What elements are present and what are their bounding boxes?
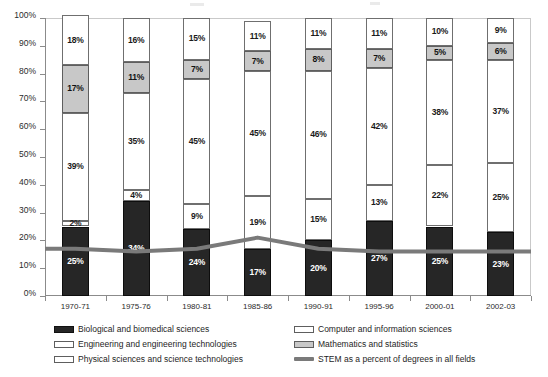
bar-segment-label: 5%: [434, 48, 446, 57]
legend-label: Mathematics and statistics: [318, 339, 418, 349]
bar-segment-math: 11%: [123, 62, 150, 93]
legend-label: Computer and information sciences: [318, 324, 452, 334]
y-axis-tick-label: 90%: [19, 39, 36, 48]
y-axis-tick-label: 50%: [19, 150, 36, 159]
bar-segment-label: 11%: [128, 73, 144, 82]
bar-segment-label: 9%: [191, 212, 203, 221]
y-axis-tick-label: 80%: [19, 67, 36, 76]
bar-segment-label: 10%: [432, 27, 448, 36]
bar-segment-phys: 9%: [487, 18, 514, 43]
legend-label: Engineering and engineering technologies: [78, 339, 237, 349]
x-axis-tick-label: 1980-81: [167, 302, 227, 312]
bar-segment-math: 7%: [366, 49, 393, 68]
x-axis-tick-label: 1995-96: [349, 302, 409, 312]
bar-segment-eng: 46%: [305, 71, 332, 199]
bar-segment-label: 42%: [371, 122, 387, 131]
bar-segment-math: 7%: [183, 60, 210, 79]
bar-segment-label: 17%: [249, 268, 265, 277]
x-axis-tick-mark: [531, 296, 532, 301]
x-axis-tick-label: 1985-86: [228, 302, 288, 312]
bar-segment-eng: 45%: [244, 71, 271, 196]
bar-segment-eng: 45%: [183, 79, 210, 204]
bar-segment-math: 8%: [305, 49, 332, 71]
bar-segment-label: 25%: [67, 257, 83, 266]
bar-segment-label: 23%: [492, 260, 508, 269]
x-axis-tick-mark: [227, 296, 228, 301]
bar-segment-label: 22%: [432, 191, 448, 200]
bar-segment-comp: 2%: [62, 221, 89, 227]
y-axis-tick-label: 100%: [14, 11, 36, 20]
bar-segment-eng: 38%: [426, 60, 453, 166]
y-axis-tick-label: 30%: [19, 206, 36, 215]
bar-segment-comp: 19%: [244, 196, 271, 249]
bar-segment-eng: 37%: [487, 60, 514, 163]
bar-column: 27%13%42%7%11%: [366, 18, 393, 296]
scan-artifact: [370, 2, 380, 5]
bar-segment-bio: 17%: [244, 249, 271, 296]
stacked-bar-chart: 0%10%20%30%40%50%60%70%80%90%100% 25%2%3…: [0, 0, 548, 377]
bar-segment-eng: 42%: [366, 68, 393, 185]
bar-segment-label: 37%: [492, 107, 508, 116]
plot-area: [45, 18, 531, 296]
legend-column-right: Computer and information sciencesMathema…: [294, 322, 475, 367]
x-axis-tick-label: 2002-03: [471, 302, 531, 312]
bar-segment-comp: 13%: [366, 185, 393, 221]
bar-segment-label: 15%: [189, 34, 205, 43]
y-axis-tick-label: 60%: [19, 122, 36, 131]
bar-segment-phys: 11%: [244, 21, 271, 52]
bar-segment-label: 15%: [310, 215, 326, 224]
legend-swatch-comp: [294, 326, 314, 333]
bar-segment-label: 20%: [310, 264, 326, 273]
bar-segment-label: 11%: [310, 29, 326, 38]
bar-segment-label: 9%: [495, 26, 507, 35]
bar-segment-phys: 10%: [426, 18, 453, 46]
x-axis-tick-label: 1990-91: [288, 302, 348, 312]
bar-segment-label: 46%: [310, 130, 326, 139]
y-axis-tick-label: 20%: [19, 233, 36, 242]
y-axis-tick-label: 40%: [19, 178, 36, 187]
bar-segment-bio: 24%: [183, 229, 210, 296]
x-axis-tick-label: 1975-76: [106, 302, 166, 312]
x-axis-tick-label: 1970-71: [45, 302, 105, 312]
x-axis-tick-mark: [45, 296, 46, 301]
bar-segment-phys: 16%: [123, 18, 150, 62]
bar-column: 24%9%45%7%15%: [183, 18, 210, 296]
x-axis-tick-mark: [470, 296, 471, 301]
bar-segment-comp: 15%: [305, 199, 332, 241]
bar-segment-label: 8%: [312, 55, 324, 64]
bar-segment-label: 35%: [128, 137, 144, 146]
bar-segment-label: 6%: [495, 47, 507, 56]
bar-segment-label: 16%: [128, 36, 144, 45]
bar-segment-label: 13%: [371, 198, 387, 207]
bar-segment-label: 25%: [432, 257, 448, 266]
bar-segment-label: 7%: [191, 65, 203, 74]
bar-segment-label: 7%: [252, 57, 264, 66]
bar-segment-bio: 34%: [123, 201, 150, 296]
legend-item: Mathematics and statistics: [294, 337, 475, 351]
legend-swatch-phys: [54, 356, 74, 363]
bar-column: 17%19%45%7%11%: [244, 18, 271, 296]
bar-segment-bio: 27%: [366, 221, 393, 296]
bar-segment-phys: 11%: [305, 18, 332, 49]
legend-item: Engineering and engineering technologies: [54, 337, 243, 351]
bar-segment-label: 17%: [67, 84, 83, 93]
bar-segment-comp: 4%: [123, 190, 150, 201]
bar-segment-label: 18%: [67, 36, 83, 45]
bar-segment-math: 17%: [62, 65, 89, 112]
x-axis-tick-mark: [288, 296, 289, 301]
bar-segment-bio: 20%: [305, 240, 332, 296]
bar-segment-label: 38%: [432, 108, 448, 117]
bar-segment-label: 11%: [371, 29, 387, 38]
legend-label: Biological and biomedical sciences: [78, 324, 209, 334]
x-axis-tick-mark: [106, 296, 107, 301]
legend-swatch-bio: [54, 326, 74, 333]
bar-segment-phys: 15%: [183, 18, 210, 60]
bar-segment-bio: 25%: [62, 227, 89, 297]
legend-swatch-eng: [54, 341, 74, 348]
bar-segment-label: 11%: [250, 32, 266, 41]
y-axis-tick-label: 10%: [19, 261, 36, 270]
legend-column-left: Biological and biomedical sciencesEngine…: [54, 322, 243, 367]
bar-segment-label: 45%: [249, 129, 265, 138]
bar-segment-label: 7%: [373, 54, 385, 63]
bar-segment-math: 6%: [487, 43, 514, 60]
